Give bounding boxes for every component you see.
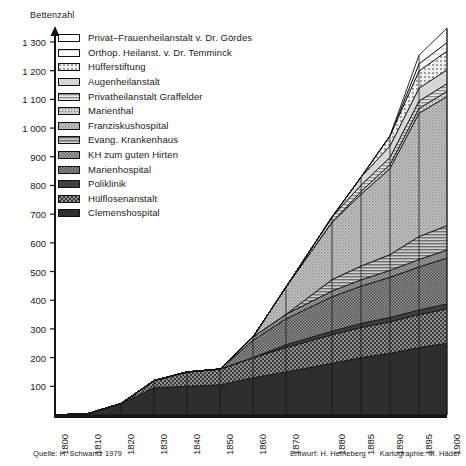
legend-swatch-icon <box>58 209 80 217</box>
legend-label: Poliklinik <box>88 179 126 189</box>
y-axis-tick-label: 700 <box>0 209 46 220</box>
legend-swatch-fill <box>59 50 79 56</box>
footer-source: Quelle: H. Schwantz 1979 <box>33 449 122 458</box>
legend-label: Marienthal <box>88 106 133 116</box>
legend-label: Evang. Krankenhaus <box>88 135 178 145</box>
legend-swatch-fill <box>59 123 79 129</box>
legend-swatch-fill <box>59 210 79 216</box>
legend-label: Hüfferstiftung <box>88 62 146 72</box>
legend-swatch-fill <box>59 35 79 41</box>
y-axis-tick-label: 1 200 <box>0 65 46 76</box>
legend-swatch-fill <box>59 64 79 70</box>
legend-swatch-icon <box>58 195 80 203</box>
legend-swatch-icon <box>58 151 80 159</box>
legend-swatch-icon <box>58 136 80 144</box>
y-axis-tick-label: 1 300 <box>0 37 46 48</box>
legend-label: Orthop. Heilanst. v. Dr. Temminck <box>88 48 232 58</box>
footer-design: Entwurf: H. Heineberg <box>290 449 366 458</box>
legend-swatch-icon <box>58 49 80 57</box>
legend-swatch-fill <box>59 94 79 100</box>
legend-label: Marienhospital <box>88 165 151 175</box>
legend-item[interactable]: Augenheilanstalt <box>58 75 273 90</box>
legend-swatch-fill <box>59 152 79 158</box>
x-axis-tick-label: 1840 <box>191 434 202 455</box>
legend-swatch-fill <box>59 137 79 143</box>
y-axis-tick-label: 900 <box>0 151 46 162</box>
legend-item[interactable]: Marienhospital <box>58 162 273 177</box>
legend-swatch-icon <box>58 180 80 188</box>
legend-item[interactable]: Hülflosenanstalt <box>58 192 273 207</box>
legend-swatch-fill <box>59 181 79 187</box>
legend-label: Hülflosenanstalt <box>88 194 157 204</box>
legend-swatch-icon <box>58 166 80 174</box>
y-axis-tick-label: 1 000 <box>0 123 46 134</box>
y-axis-tick-label: 800 <box>0 180 46 191</box>
legend-swatch-icon <box>58 34 80 42</box>
legend-item[interactable]: Franziskushospital <box>58 119 273 134</box>
legend-label: Privat–Frauenheilanstalt v. Dr. Gördes <box>88 33 252 43</box>
x-axis-tick-label: 1830 <box>158 434 169 455</box>
y-axis-tick-label: 200 <box>0 352 46 363</box>
legend-swatch-icon <box>58 107 80 115</box>
y-axis-tick-label: 500 <box>0 266 46 277</box>
legend-item[interactable]: Poliklinik <box>58 177 273 192</box>
legend-swatch-fill <box>59 108 79 114</box>
legend-item[interactable]: KH zum guten Hirten <box>58 148 273 163</box>
legend-label: Clemenshospital <box>88 208 160 218</box>
legend-swatch-fill <box>59 167 79 173</box>
y-axis-tick-label: 400 <box>0 295 46 306</box>
legend-item[interactable]: Evang. Krankenhaus <box>58 133 273 148</box>
legend-swatch-icon <box>58 63 80 71</box>
chart-root: Bettenzahl <box>0 0 466 466</box>
footer-credits: Entwurf: H. Heineberg Kartographie: M. H… <box>290 449 460 458</box>
x-axis-tick-label: 1850 <box>224 434 235 455</box>
legend-label: KH zum guten Hirten <box>88 150 178 160</box>
footer-cartography: Kartographie: M. Häder <box>380 449 460 458</box>
x-axis-tick-label: 1820 <box>125 434 136 455</box>
legend-swatch-icon <box>58 78 80 86</box>
legend-item[interactable]: Orthop. Heilanst. v. Dr. Temminck <box>58 46 273 61</box>
x-axis-tick-label: 1860 <box>257 434 268 455</box>
y-axis-tick-label: 1 100 <box>0 94 46 105</box>
legend-label: Privatheilanstalt Graffelder <box>88 92 203 102</box>
legend-item[interactable]: Clemenshospital <box>58 206 273 221</box>
y-axis-tick-label: 300 <box>0 323 46 334</box>
legend-item[interactable]: Privatheilanstalt Graffelder <box>58 89 273 104</box>
legend-swatch-fill <box>59 196 79 202</box>
legend-label: Franziskushospital <box>88 121 168 131</box>
legend-swatch-fill <box>59 79 79 85</box>
legend-item[interactable]: Hüfferstiftung <box>58 60 273 75</box>
legend-label: Augenheilanstalt <box>88 77 160 87</box>
legend-item[interactable]: Marienthal <box>58 104 273 119</box>
legend-swatch-icon <box>58 93 80 101</box>
legend-swatch-icon <box>58 122 80 130</box>
legend-item[interactable]: Privat–Frauenheilanstalt v. Dr. Gördes <box>58 31 273 46</box>
y-axis-tick-label: 100 <box>0 381 46 392</box>
y-axis-tick-label: 600 <box>0 237 46 248</box>
chart-legend: Privat–Frauenheilanstalt v. Dr. GördesOr… <box>58 31 273 221</box>
